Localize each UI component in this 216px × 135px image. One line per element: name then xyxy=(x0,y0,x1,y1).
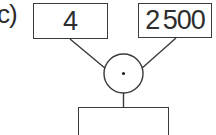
input-value-left: 4 xyxy=(63,8,78,35)
multiplication-dot-icon xyxy=(122,72,125,75)
input-value-right: 2 500 xyxy=(145,7,205,34)
input-box-left: 4 xyxy=(33,3,108,39)
right-connector-line xyxy=(141,38,176,69)
left-connector-line xyxy=(70,39,106,69)
result-box[interactable] xyxy=(78,107,169,135)
input-box-right: 2 500 xyxy=(138,3,212,38)
